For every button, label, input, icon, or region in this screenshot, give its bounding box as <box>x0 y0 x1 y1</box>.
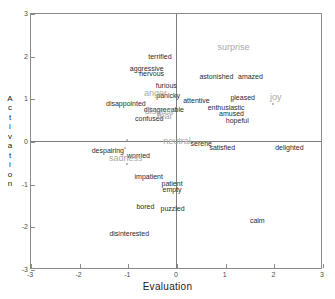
emotion-term-label: calm <box>250 216 265 223</box>
emotion-term-label: disappointed <box>106 99 146 106</box>
y-axis-tick <box>31 57 35 58</box>
emotion-category-label: joy <box>270 92 282 102</box>
emotion-category-label: fear <box>157 111 173 121</box>
y-axis-title-letter: n <box>4 179 16 189</box>
y-axis-tick-label: -2 <box>17 223 28 230</box>
y-axis-title-letter: t <box>4 113 16 123</box>
emotion-term-label: furious <box>156 81 177 88</box>
y-axis-tick-label: -3 <box>17 266 28 273</box>
emotion-circumplex-chart: -3-2-101233210-1-2-3 terrifiedaggressive… <box>0 0 335 299</box>
x-axis-tick-label: 2 <box>271 271 275 278</box>
x-axis-tick <box>177 264 178 268</box>
y-axis-tick <box>31 14 35 15</box>
data-point-marker <box>232 100 234 102</box>
y-axis-title-letter: v <box>4 132 16 142</box>
x-axis-tick <box>80 264 81 268</box>
x-axis-tick <box>274 264 275 268</box>
x-axis-tick-label: 0 <box>174 271 178 278</box>
x-axis-title: Evaluation <box>0 281 335 292</box>
emotion-term-label: empty <box>163 186 182 193</box>
emotion-term-label: delighted <box>275 143 303 150</box>
y-axis-title-letter: o <box>4 170 16 180</box>
data-point-marker <box>126 163 128 165</box>
y-axis-tick <box>31 142 35 143</box>
emotion-term-label: attentive <box>183 97 209 104</box>
emotion-term-label: bored <box>136 202 154 209</box>
x-axis-tick-label: -2 <box>76 271 82 278</box>
x-axis-tick-label: 1 <box>223 271 227 278</box>
emotion-term-label: astonished <box>199 73 233 80</box>
y-axis-tick-label: 2 <box>17 52 28 59</box>
y-axis-tick-label: -1 <box>17 180 28 187</box>
y-axis-title-letter: t <box>4 151 16 161</box>
data-point-marker <box>124 147 126 149</box>
y-axis-title-letter: i <box>4 122 16 132</box>
data-point-marker <box>126 139 128 141</box>
y-axis-tick <box>31 227 35 228</box>
emotion-term-label: puzzled <box>161 205 185 212</box>
x-axis-tick-label: -1 <box>124 271 130 278</box>
y-axis-tick <box>31 99 35 100</box>
x-axis-tick <box>128 264 129 268</box>
emotion-term-label: amazed <box>238 73 263 80</box>
emotion-term-label: despairing <box>92 146 124 153</box>
y-axis-title-letter: a <box>4 141 16 151</box>
y-axis-tick-label: 0 <box>17 138 28 145</box>
y-axis-title-letter: A <box>4 94 16 104</box>
x-axis-tick-label: 3 <box>320 271 324 278</box>
y-axis-tick <box>31 185 35 186</box>
emotion-term-label: disinterested <box>109 229 149 236</box>
emotion-term-label: pleased <box>230 94 255 101</box>
y-axis-title-letter: c <box>4 103 16 113</box>
y-axis-tick-label: 3 <box>17 10 28 17</box>
emotion-term-label: terrified <box>148 52 171 59</box>
x-axis-tick <box>323 264 324 268</box>
emotion-category-label: anger <box>144 88 167 98</box>
emotion-category-label: neutral <box>163 136 191 146</box>
emotion-term-label: satisfied <box>209 144 235 151</box>
x-axis-tick <box>31 264 32 268</box>
emotion-category-label: sadness <box>109 153 143 163</box>
emotion-term-label: hopeful <box>226 116 249 123</box>
data-point-marker <box>272 103 274 105</box>
y-axis-title-letter: i <box>4 160 16 170</box>
y-axis-title: Activation <box>4 94 16 189</box>
emotion-term-label: impatient <box>135 172 163 179</box>
y-axis-tick-label: 1 <box>17 95 28 102</box>
emotion-term-label: nervous <box>139 69 164 76</box>
emotion-category-label: surprise <box>217 42 249 52</box>
x-axis-tick <box>226 264 227 268</box>
